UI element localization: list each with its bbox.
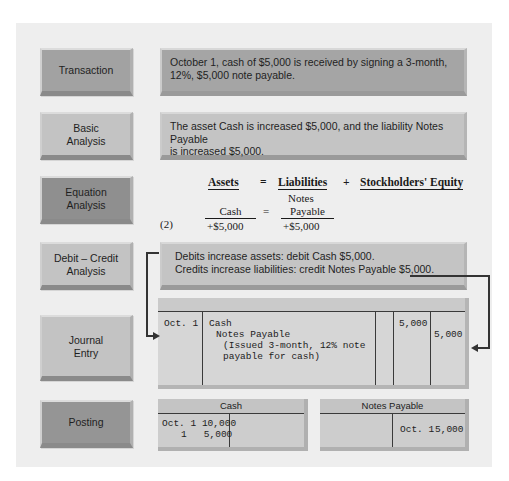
basic-analysis-label-line1: Basic — [66, 122, 105, 135]
notes-payable-credit-date: Oct. 1 — [400, 424, 434, 435]
cash-debit-line2: 1 5,000 — [181, 429, 232, 440]
transaction-label: Transaction — [59, 64, 113, 77]
journal-credit-account: Notes Payable — [216, 329, 290, 340]
journal-entry-label-box: Journal Entry — [40, 315, 133, 381]
debit-credit-text-box: Debits increase assets: debit Cash $5,00… — [160, 242, 467, 290]
basic-analysis-label-box: Basic Analysis — [40, 112, 133, 160]
equation-equals-header: = — [260, 176, 267, 188]
debit-credit-label-line2: Analysis — [54, 265, 118, 278]
debit-credit-text-line1: Debits increase assets: debit Cash $5,00… — [175, 250, 456, 263]
journal-date: Oct. 1 — [164, 318, 198, 329]
basic-analysis-text-line2: is increased $5,000. — [170, 145, 456, 158]
equation-equals: = — [263, 205, 269, 217]
journal-explanation-line1: (Issued 3-month, 12% note — [223, 340, 366, 351]
journal-credit-amount: 5,000 — [434, 329, 463, 340]
cash-t-account-rule — [158, 413, 304, 414]
equation-plus-header: + — [343, 176, 350, 188]
notes-payable-credit-amount: 5,000 — [435, 424, 464, 435]
debit-connector-vertical — [146, 252, 148, 336]
basic-analysis-text-line1: The asset Cash is increased $5,000, and … — [170, 120, 456, 145]
journal-ref-column-rule-left — [375, 311, 376, 385]
journal-entry-table: Oct. 1 Cash Notes Payable (Issued 3-mont… — [158, 298, 469, 389]
journal-entry-label-line1: Journal — [69, 334, 103, 347]
journal-header-band — [158, 298, 465, 311]
notes-payable-t-account-divider — [392, 413, 393, 447]
debit-arrow-icon — [153, 332, 160, 340]
cash-debit-line1: Oct. 1 10,000 — [162, 418, 236, 429]
equation-analysis-label-line1: Equation — [65, 186, 106, 199]
credit-connector-top — [410, 275, 490, 277]
debit-credit-label-box: Debit – Credit Analysis — [40, 242, 133, 290]
journal-explanation-line2: payable for cash) — [223, 351, 320, 362]
transaction-text-line1: October 1, cash of $5,000 is received by… — [170, 56, 456, 69]
journal-date-column-rule — [202, 311, 203, 385]
equation-equity-header: Stockholders' Equity — [360, 176, 463, 190]
debit-credit-text-line2: Credits increase liabilities: credit Not… — [175, 263, 456, 276]
notes-payable-t-account-title: Notes Payable — [320, 399, 465, 413]
credit-connector-bottom — [478, 347, 490, 349]
equation-liability-account-line1: Notes — [288, 192, 314, 204]
journal-debit-amount: 5,000 — [399, 318, 428, 329]
equation-asset-change: +$5,000 — [207, 220, 243, 232]
journal-entry-label-line2: Entry — [69, 347, 103, 360]
equation-liability-change: +$5,000 — [283, 220, 319, 232]
transaction-text-box: October 1, cash of $5,000 is received by… — [160, 48, 467, 96]
journal-header-rule — [158, 311, 465, 312]
credit-connector-vertical — [488, 275, 490, 349]
equation-assets-header: Assets — [208, 176, 239, 190]
equation-liabilities-header: Liabilities — [278, 176, 327, 190]
notes-payable-t-account: Notes Payable Oct. 1 5,000 — [320, 399, 469, 451]
equation-liability-account-line2: Payable — [281, 205, 334, 219]
journal-debit-column-rule — [430, 311, 431, 385]
equation-asset-account: Cash — [205, 205, 256, 219]
posting-label: Posting — [68, 416, 103, 429]
equation-row-number: (2) — [160, 218, 173, 230]
transaction-text-line2: 12%, $5,000 note payable. — [170, 69, 456, 82]
journal-debit-account: Cash — [209, 318, 232, 329]
equation-analysis-label-line2: Analysis — [65, 199, 106, 212]
basic-analysis-label-line2: Analysis — [66, 135, 105, 148]
cash-t-account: Cash Oct. 1 10,000 1 5,000 — [158, 399, 308, 451]
credit-arrow-icon — [471, 344, 478, 352]
basic-analysis-text-box: The asset Cash is increased $5,000, and … — [160, 112, 467, 160]
transaction-label-box: Transaction — [40, 48, 133, 96]
debit-credit-label-line1: Debit – Credit — [54, 252, 118, 265]
equation-analysis-label-box: Equation Analysis — [40, 176, 133, 224]
journal-ref-column-rule-right — [393, 311, 394, 385]
cash-t-account-title: Cash — [158, 399, 304, 413]
posting-label-box: Posting — [40, 400, 133, 448]
